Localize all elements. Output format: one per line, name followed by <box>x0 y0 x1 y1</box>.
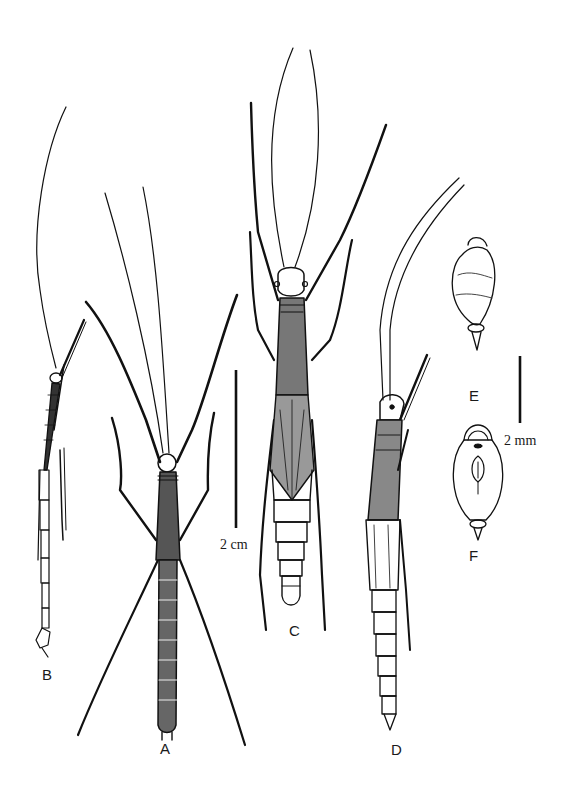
specimen-d-drawing <box>366 178 464 730</box>
panel-label-d: D <box>391 742 402 757</box>
specimen-c-drawing <box>250 48 386 630</box>
egg-e-drawing <box>452 238 495 350</box>
line-art <box>0 0 567 794</box>
panel-label-a: A <box>160 741 170 756</box>
specimen-b-drawing <box>36 107 86 657</box>
figure-plate: B A C D E F 2 cm 2 mm <box>0 0 567 794</box>
panel-label-b: B <box>42 667 52 682</box>
scale-label-2mm: 2 mm <box>504 434 536 448</box>
panel-label-e: E <box>469 388 479 403</box>
scale-label-2cm: 2 cm <box>220 538 248 552</box>
panel-label-c: C <box>289 623 300 638</box>
panel-label-f: F <box>469 548 478 563</box>
egg-f-drawing <box>453 425 502 540</box>
specimen-a-drawing <box>78 187 245 745</box>
